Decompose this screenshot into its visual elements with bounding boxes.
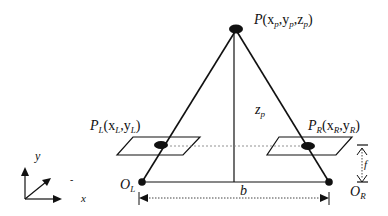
baseline-dimension (139, 192, 329, 205)
label-baseline: b (240, 183, 247, 198)
camera-center-right (325, 178, 333, 186)
coordinate-axes (21, 167, 62, 203)
label-axis-y: y (34, 149, 41, 163)
ray-right (236, 30, 329, 182)
label-point-P: P(xp,yp,zp) (253, 12, 313, 29)
label-axis-x: x (80, 192, 86, 204)
label-focal: f (364, 158, 369, 170)
label-point-PL: PL(xL,yL) (89, 118, 141, 135)
projection-point-right (301, 142, 315, 150)
world-point-P (229, 25, 243, 34)
label-depth: zp (254, 102, 265, 119)
camera-center-left (138, 178, 146, 186)
ray-left (142, 30, 236, 182)
label-origin-left: OL (120, 177, 135, 194)
label-point-PR: PR(xR,yR) (307, 118, 360, 135)
projection-point-left (154, 141, 168, 149)
label-axis-z-mark: - (70, 174, 73, 185)
label-origin-right: OR (350, 184, 366, 201)
stereo-geometry-diagram: P(xp,yp,zp) PL(xL,yL) PR(xR,yR) zp b f O… (0, 0, 388, 216)
